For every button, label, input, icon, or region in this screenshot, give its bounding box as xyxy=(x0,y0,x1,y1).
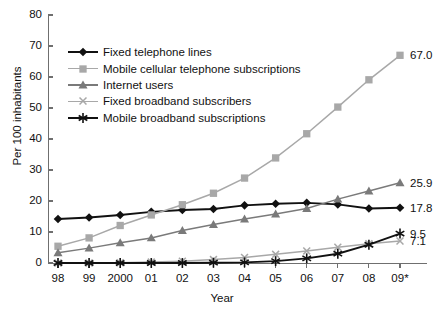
triangle-marker xyxy=(395,178,404,186)
x-tick-label-07: 07 xyxy=(331,272,344,284)
square-marker xyxy=(365,76,372,83)
square-marker xyxy=(179,201,186,208)
y-tick-label-70: 70 xyxy=(14,40,42,52)
legend-item-1[interactable]: Mobile cellular telephone subscriptions xyxy=(68,60,301,76)
legend-label-4: Mobile broadband subscriptions xyxy=(98,112,265,124)
chart-legend: Fixed telephone linesMobile cellular tel… xyxy=(68,44,301,126)
x-tick-mark xyxy=(368,263,369,268)
square-icon xyxy=(68,62,98,76)
square-marker xyxy=(396,52,403,59)
x-icon xyxy=(68,94,98,108)
y-axis-title: Per 100 inhabitants xyxy=(11,56,23,176)
y-tick-label-0: 0 xyxy=(14,257,42,269)
legend-label-2: Internet users xyxy=(98,79,173,91)
legend-label-1: Mobile cellular telephone subscriptions xyxy=(98,63,301,75)
legend-item-3[interactable]: Fixed broadband subscribers xyxy=(68,93,301,109)
x-tick-label-08: 08 xyxy=(363,272,376,284)
y-tick-label-20: 20 xyxy=(14,195,42,207)
legend-label-0: Fixed telephone lines xyxy=(98,46,212,58)
x-tick-mark xyxy=(306,263,307,268)
square-marker xyxy=(334,103,341,110)
diamond-marker xyxy=(116,211,125,220)
diamond-icon xyxy=(68,45,98,59)
square-marker xyxy=(148,211,155,218)
triangle-icon xyxy=(68,78,98,92)
x-tick-mark xyxy=(399,263,400,268)
asterisk-marker xyxy=(79,113,88,123)
diamond-marker xyxy=(85,213,94,222)
square-marker xyxy=(210,190,217,197)
x-tick-mark xyxy=(337,263,338,268)
square-marker xyxy=(272,154,279,161)
asterisk-marker xyxy=(396,229,405,239)
square-marker xyxy=(79,65,86,72)
x-tick-label-02: 02 xyxy=(176,272,189,284)
x-tick-label-99: 99 xyxy=(83,272,96,284)
asterisk-icon xyxy=(68,111,98,125)
legend-item-2[interactable]: Internet users xyxy=(68,77,301,93)
diamond-marker xyxy=(54,215,63,224)
diamond-marker xyxy=(79,48,88,57)
end-label-4: 9.5 xyxy=(410,228,426,240)
x-marker xyxy=(80,98,87,105)
end-label-1: 67.0 xyxy=(410,49,432,61)
series-line-2 xyxy=(58,183,400,253)
legend-item-0[interactable]: Fixed telephone lines xyxy=(68,44,301,60)
y-tick-label-80: 80 xyxy=(14,9,42,21)
diamond-marker xyxy=(240,201,249,210)
x-tick-label-09est: 09* xyxy=(391,272,408,284)
x-tick-label-04: 04 xyxy=(238,272,251,284)
series-line-0 xyxy=(58,203,400,219)
end-label-2: 25.9 xyxy=(410,177,432,189)
chart-container: 01020304050607080 9899200001020304050607… xyxy=(0,0,444,313)
x-tick-label-2000: 2000 xyxy=(107,272,133,284)
square-marker xyxy=(241,174,248,181)
diamond-marker xyxy=(209,205,218,214)
x-axis-title: Year xyxy=(0,292,444,304)
x-tick-label-05: 05 xyxy=(269,272,282,284)
square-marker xyxy=(303,130,310,137)
diamond-marker xyxy=(271,199,280,208)
square-marker xyxy=(85,234,92,241)
x-tick-label-01: 01 xyxy=(145,272,158,284)
end-label-0: 17.8 xyxy=(410,202,432,214)
legend-label-3: Fixed broadband subscribers xyxy=(98,95,251,107)
diamond-marker xyxy=(396,204,405,213)
x-tick-label-03: 03 xyxy=(207,272,220,284)
legend-item-4[interactable]: Mobile broadband subscriptions xyxy=(68,110,301,126)
x-tick-label-98: 98 xyxy=(52,272,65,284)
y-tick-label-10: 10 xyxy=(14,226,42,238)
diamond-marker xyxy=(365,204,374,213)
x-tick-label-06: 06 xyxy=(300,272,313,284)
triangle-marker xyxy=(78,80,87,88)
square-marker xyxy=(117,222,124,229)
